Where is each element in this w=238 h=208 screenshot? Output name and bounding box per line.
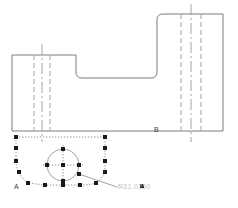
grip-circle-east[interactable] bbox=[77, 163, 81, 167]
grip-right-mid[interactable] bbox=[103, 159, 107, 163]
radius-dimension-label[interactable]: R31.0250 bbox=[118, 183, 151, 190]
grip-bottom-center[interactable] bbox=[61, 183, 65, 187]
grip-circle-south[interactable] bbox=[61, 179, 65, 183]
grip-right-lower[interactable] bbox=[103, 170, 107, 174]
grip-bottom-mid-right[interactable] bbox=[78, 183, 82, 187]
center-lines bbox=[42, 4, 191, 142]
grip-top-left-corner[interactable] bbox=[14, 135, 18, 139]
grip-left-upper[interactable] bbox=[14, 146, 18, 150]
cad-drawing-canvas[interactable]: A B R31.0250 bbox=[0, 0, 238, 208]
grip-left-lower[interactable] bbox=[17, 170, 21, 174]
grip-circle-north[interactable] bbox=[61, 147, 65, 151]
leader-line bbox=[79, 174, 117, 187]
selected-spline[interactable] bbox=[16, 137, 105, 185]
section-label-b: B bbox=[154, 126, 159, 133]
drawing-vector-layer bbox=[0, 0, 238, 208]
grip-bottom-right[interactable] bbox=[94, 181, 98, 185]
section-label-a: A bbox=[14, 183, 19, 190]
grip-bottom-mid-left[interactable] bbox=[43, 183, 47, 187]
grip-circle-west[interactable] bbox=[45, 163, 49, 167]
grip-top-right-corner[interactable] bbox=[103, 135, 107, 139]
grip-leader-anchor[interactable] bbox=[77, 172, 81, 176]
grip-circle-center[interactable] bbox=[61, 163, 65, 167]
grip-right-upper[interactable] bbox=[103, 146, 107, 150]
spline-path[interactable] bbox=[16, 137, 105, 185]
grip-left-mid[interactable] bbox=[14, 159, 18, 163]
grip-bottom-left[interactable] bbox=[26, 181, 30, 185]
